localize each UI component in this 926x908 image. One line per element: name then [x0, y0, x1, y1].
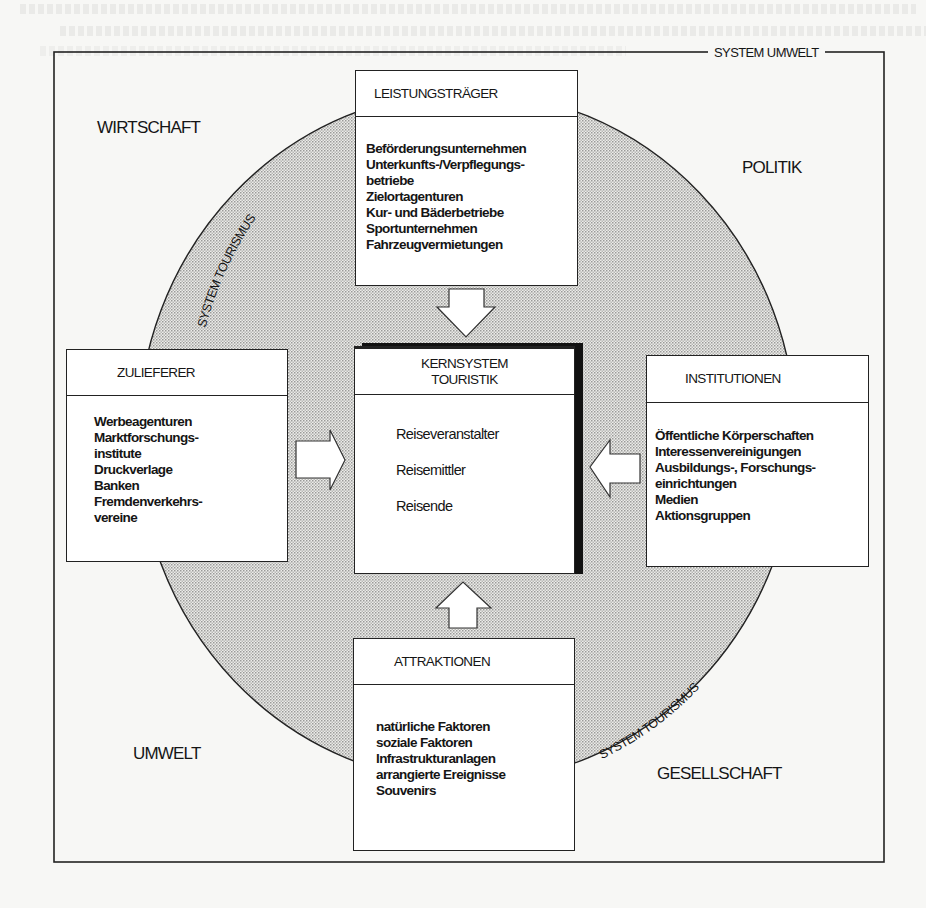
list-item: einrichtungen — [655, 476, 868, 492]
institutionen-title: INSTITUTIONEN — [685, 371, 781, 387]
region-wirtschaft: WIRTSCHAFT — [97, 118, 200, 138]
list-item: Druckverlage — [94, 462, 287, 478]
leistungstraeger-title: LEISTUNGSTRÄGER — [374, 86, 498, 102]
attraktionen-title: ATTRAKTIONEN — [394, 654, 490, 670]
zulieferer-title: ZULIEFERER — [117, 365, 195, 381]
list-item: Medien — [655, 492, 868, 508]
box-title: ATTRAKTIONEN — [354, 639, 574, 685]
box-body: natürliche Faktoren soziale Faktoren Inf… — [354, 685, 574, 799]
region-politik: POLITIK — [742, 158, 802, 178]
box-zulieferer: ZULIEFERER Werbeagenturen Marktforschung… — [66, 349, 288, 562]
list-item: Reiseveranstalter — [396, 426, 574, 442]
box-title: LEISTUNGSTRÄGER — [356, 71, 577, 117]
list-item: Reisemittler — [396, 462, 574, 478]
box-attraktionen: ATTRAKTIONEN natürliche Faktoren soziale… — [353, 638, 575, 851]
box-body: Beförderungsunternehmen Unterkunfts-/Ver… — [356, 117, 577, 253]
list-item: Reisende — [396, 498, 574, 514]
box-body: Öffentliche Körperschaften Interessenver… — [647, 403, 868, 524]
list-item: Unterkunfts-/Verpflegungs- — [366, 157, 577, 173]
list-item: Marktforschungs- — [94, 430, 287, 446]
list-item: Sportunternehmen — [366, 221, 577, 237]
region-umwelt: UMWELT — [133, 744, 201, 764]
system-umwelt-label: SYSTEM UMWELT — [708, 45, 825, 61]
list-item: Infrastrukturanlagen — [376, 751, 574, 767]
box-leistungstraeger: LEISTUNGSTRÄGER Beförderungsunternehmen … — [355, 70, 578, 286]
region-gesellschaft: GESELLSCHAFT — [657, 764, 782, 784]
kernsystem-title-line2: TOURISTIK — [431, 372, 497, 388]
box-body: Werbeagenturen Marktforschungs- institut… — [67, 396, 287, 526]
list-item: Kur- und Bäderbetriebe — [366, 205, 577, 221]
list-item: betriebe — [366, 173, 577, 189]
list-item: Ausbildungs-, Forschungs- — [655, 460, 868, 476]
list-item: Banken — [94, 478, 287, 494]
list-item: Fremdenverkehrs- — [94, 494, 287, 510]
box-kernsystem-touristik: KERNSYSTEM TOURISTIK Reiseveranstalter R… — [354, 346, 575, 574]
list-item: Aktionsgruppen — [655, 508, 868, 524]
list-item: Souvenirs — [376, 783, 574, 799]
list-item: institute — [94, 446, 287, 462]
box-title: INSTITUTIONEN — [647, 356, 868, 403]
box-institutionen: INSTITUTIONEN Öffentliche Körperschaften… — [646, 355, 869, 567]
list-item: Zielortagenturen — [366, 189, 577, 205]
list-item: Fahrzeugvermietungen — [366, 237, 577, 253]
list-item: arrangierte Ereignisse — [376, 767, 574, 783]
box-body: Reiseveranstalter Reisemittler Reisende — [355, 395, 574, 514]
list-item: soziale Faktoren — [376, 735, 574, 751]
box-title: KERNSYSTEM TOURISTIK — [355, 349, 574, 395]
list-item: natürliche Faktoren — [376, 719, 574, 735]
list-item: Interessenvereinigungen — [655, 444, 868, 460]
list-item: Öffentliche Körperschaften — [655, 428, 868, 444]
list-item: Werbeagenturen — [94, 414, 287, 430]
list-item: Beförderungsunternehmen — [366, 141, 577, 157]
kernsystem-title-line1: KERNSYSTEM — [421, 356, 508, 372]
box-title: ZULIEFERER — [67, 350, 287, 396]
list-item: vereine — [94, 510, 287, 526]
